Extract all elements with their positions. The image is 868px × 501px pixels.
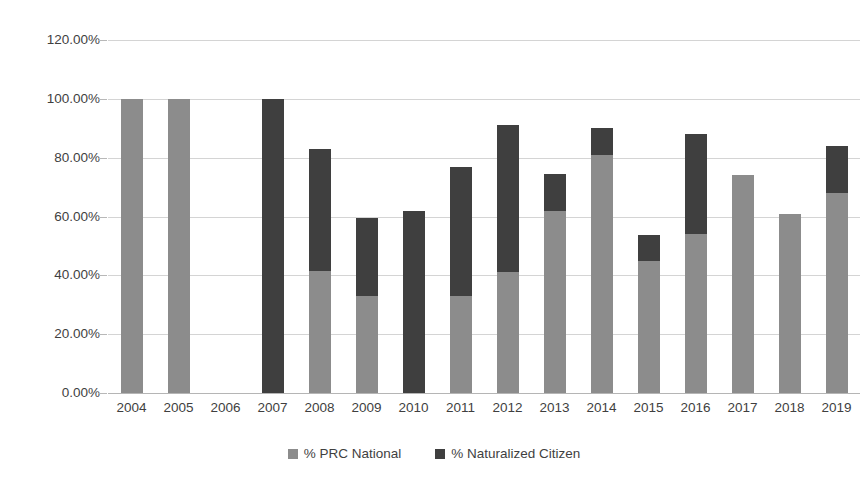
bar-2012[interactable] — [497, 125, 519, 393]
y-axis-tick — [98, 217, 107, 218]
bar-segment-naturalized-citizen[interactable] — [826, 146, 848, 193]
bar-2007[interactable] — [262, 99, 284, 393]
bar-segment-prc-national[interactable] — [544, 211, 566, 393]
x-axis-labels: 2004200520062007200820092010201120122013… — [108, 399, 860, 421]
bar-2016[interactable] — [685, 134, 707, 393]
chart-legend: % PRC National% Naturalized Citizen — [0, 446, 868, 461]
bar-segment-prc-national[interactable] — [591, 155, 613, 393]
bar-2008[interactable] — [309, 149, 331, 393]
legend-item[interactable]: % Naturalized Citizen — [435, 446, 580, 461]
bar-2014[interactable] — [591, 128, 613, 393]
y-axis-tick — [98, 158, 107, 159]
bar-2004[interactable] — [121, 99, 143, 393]
legend-label: % Naturalized Citizen — [451, 446, 580, 461]
bar-segment-prc-national[interactable] — [779, 214, 801, 393]
bar-segment-prc-national[interactable] — [826, 193, 848, 393]
bar-segment-naturalized-citizen[interactable] — [591, 128, 613, 154]
bar-2011[interactable] — [450, 167, 472, 393]
gridline-80 — [108, 158, 860, 159]
bar-segment-naturalized-citizen[interactable] — [403, 211, 425, 393]
bar-segment-naturalized-citizen[interactable] — [544, 174, 566, 211]
bar-segment-prc-national[interactable] — [732, 175, 754, 393]
bar-2013[interactable] — [544, 174, 566, 393]
bar-2010[interactable] — [403, 211, 425, 393]
bar-2015[interactable] — [638, 235, 660, 393]
bar-segment-prc-national[interactable] — [497, 272, 519, 393]
y-axis-tick — [98, 393, 107, 394]
x-axis-label-2019: 2019 — [807, 399, 867, 417]
y-axis-tick — [98, 334, 107, 335]
bar-2009[interactable] — [356, 218, 378, 393]
legend-label: % PRC National — [304, 446, 402, 461]
bar-segment-prc-national[interactable] — [450, 296, 472, 393]
legend-swatch-icon — [435, 449, 445, 459]
bar-segment-naturalized-citizen[interactable] — [497, 125, 519, 272]
bar-segment-prc-national[interactable] — [638, 261, 660, 393]
bar-segment-prc-national[interactable] — [309, 271, 331, 393]
gridline-0 — [108, 393, 860, 394]
bar-segment-prc-national[interactable] — [168, 99, 190, 393]
y-axis-ticks — [0, 40, 110, 393]
bar-2019[interactable] — [826, 146, 848, 393]
bar-segment-prc-national[interactable] — [356, 296, 378, 393]
bar-segment-naturalized-citizen[interactable] — [309, 149, 331, 271]
bar-2005[interactable] — [168, 99, 190, 393]
bar-segment-prc-national[interactable] — [685, 234, 707, 393]
bar-segment-prc-national[interactable] — [121, 99, 143, 393]
stacked-bar-chart: 0.00%20.00%40.00%60.00%80.00%100.00%120.… — [0, 0, 868, 501]
gridline-120 — [108, 40, 860, 41]
bar-2017[interactable] — [732, 175, 754, 393]
y-axis-tick — [98, 275, 107, 276]
bar-segment-naturalized-citizen[interactable] — [356, 218, 378, 296]
legend-swatch-icon — [288, 449, 298, 459]
bar-segment-naturalized-citizen[interactable] — [450, 167, 472, 296]
y-axis-tick — [98, 99, 107, 100]
bar-2018[interactable] — [779, 214, 801, 393]
bar-segment-naturalized-citizen[interactable] — [262, 99, 284, 393]
legend-item[interactable]: % PRC National — [288, 446, 402, 461]
plot-area — [108, 40, 860, 393]
bar-segment-naturalized-citizen[interactable] — [685, 134, 707, 234]
bar-segment-naturalized-citizen[interactable] — [638, 235, 660, 261]
y-axis-tick — [98, 40, 107, 41]
gridline-100 — [108, 99, 860, 100]
